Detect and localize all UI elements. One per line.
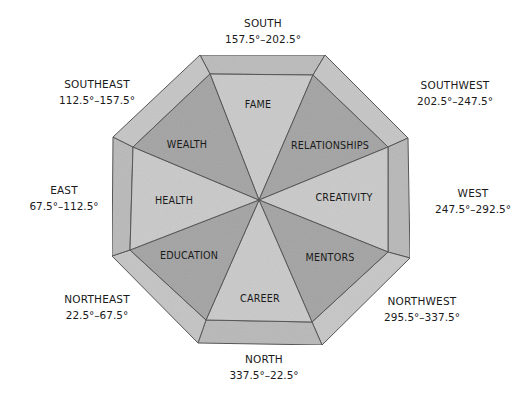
outer-ring-west (388, 138, 410, 258)
area-label-wealth: WEALTH (167, 139, 207, 150)
area-label-career: CAREER (240, 293, 280, 304)
area-label-health: HEALTH (155, 195, 193, 206)
area-label-mentors: MENTORS (305, 252, 354, 263)
outer-ring-south (200, 55, 325, 75)
area-label-fame: FAME (245, 99, 271, 110)
area-label-relationships: RELATIONSHIPS (291, 140, 369, 151)
area-label-education: EDUCATION (160, 250, 218, 261)
area-label-creativity: CREATIVITY (315, 192, 372, 203)
outer-ring-north (198, 320, 322, 345)
bagua-octagon: FAME RELATIONSHIPS CREATIVITY MENTORS CA… (0, 0, 527, 399)
